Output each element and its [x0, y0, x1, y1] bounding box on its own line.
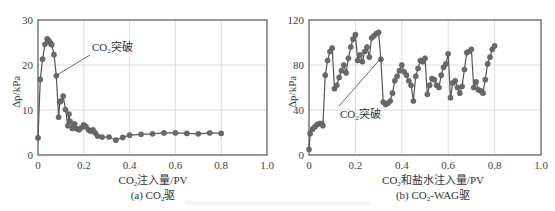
- data-point-marker: [219, 131, 224, 136]
- data-point-marker: [357, 52, 362, 57]
- data-point-marker: [61, 93, 66, 98]
- data-point-marker: [339, 68, 344, 73]
- data-point-marker: [320, 123, 325, 128]
- data-point-marker: [443, 61, 448, 66]
- data-point-marker: [341, 62, 346, 67]
- chart-b-y-axis-label: Δp/kPa: [286, 68, 298, 108]
- x-tick-label: 1.0: [260, 159, 274, 171]
- x-tick-label: 1.0: [534, 159, 548, 171]
- data-point-marker: [51, 52, 56, 57]
- chart-a-y-axis-label: Δp/kPa: [10, 68, 22, 108]
- data-point-marker: [35, 135, 40, 140]
- x-tick-label: 0.6: [169, 159, 183, 171]
- data-point-marker: [355, 58, 360, 63]
- data-point-marker: [471, 85, 476, 90]
- data-point-marker: [485, 61, 490, 66]
- data-point-marker: [138, 132, 143, 137]
- x-tick-label: 0: [35, 159, 41, 171]
- data-point-marker: [487, 55, 492, 60]
- data-point-marker: [58, 98, 63, 103]
- data-point-marker: [106, 134, 111, 139]
- data-point-marker: [184, 131, 189, 136]
- y-tick-label: 30: [22, 14, 34, 26]
- x-tick-label: 0.2: [77, 159, 91, 171]
- data-point-marker: [427, 83, 432, 88]
- y-tick-label: 20: [22, 59, 34, 71]
- chart-b-caption: (b) CO2-WAG驱: [378, 186, 488, 203]
- x-tick-label: 0: [306, 159, 312, 171]
- data-point-marker: [161, 130, 166, 135]
- data-point-marker: [376, 30, 381, 35]
- data-point-marker: [404, 73, 409, 78]
- data-point-marker: [63, 107, 68, 112]
- y-tick-label: 120: [288, 14, 305, 26]
- data-point-marker: [439, 73, 444, 78]
- x-tick-label: 0.2: [349, 159, 363, 171]
- data-point-marker: [399, 62, 404, 67]
- data-point-marker: [436, 85, 441, 90]
- data-point-marker: [72, 121, 77, 126]
- data-point-marker: [469, 47, 474, 52]
- data-point-marker: [40, 57, 45, 62]
- data-point-marker: [173, 130, 178, 135]
- x-tick-label: 0.6: [441, 159, 455, 171]
- chart-b-co2-wag-flooding: 00.20.40.60.81.004080120CO₂突破 Δp/kPa CO2…: [278, 0, 555, 200]
- data-point-marker: [483, 77, 488, 82]
- data-point-marker: [56, 115, 61, 120]
- data-point-marker: [346, 56, 351, 61]
- data-point-marker: [344, 70, 349, 75]
- data-point-marker: [378, 57, 383, 62]
- data-point-marker: [390, 91, 395, 96]
- data-point-marker: [462, 67, 467, 72]
- data-point-marker: [38, 77, 43, 82]
- y-tick-label: 10: [22, 104, 34, 116]
- data-point-marker: [120, 135, 125, 140]
- data-point-marker: [480, 91, 485, 96]
- data-point-marker: [100, 134, 105, 139]
- annotation-co2-breakthrough: CO₂突破: [92, 40, 133, 53]
- figure-caption-faint: [185, 201, 370, 205]
- x-tick-label: 0.4: [123, 159, 137, 171]
- data-point-marker: [473, 79, 478, 84]
- data-point-marker: [348, 44, 353, 49]
- data-point-marker: [150, 131, 155, 136]
- data-point-marker: [207, 130, 212, 135]
- data-point-marker: [397, 68, 402, 73]
- data-point-marker: [330, 46, 335, 51]
- data-point-marker: [67, 119, 72, 124]
- data-point-marker: [432, 77, 437, 82]
- data-point-marker: [395, 74, 400, 79]
- data-point-marker: [49, 42, 54, 47]
- data-point-marker: [334, 83, 339, 88]
- data-point-marker: [360, 59, 365, 64]
- x-tick-label: 0.8: [214, 159, 228, 171]
- data-point-marker: [337, 75, 342, 80]
- data-point-marker: [367, 55, 372, 60]
- x-tick-label: 0.4: [395, 159, 409, 171]
- x-tick-label: 0.8: [488, 159, 502, 171]
- data-point-marker: [446, 51, 451, 56]
- data-point-marker: [455, 85, 460, 90]
- data-point-marker: [95, 134, 100, 139]
- data-point-marker: [306, 147, 311, 152]
- data-point-marker: [66, 111, 71, 116]
- data-point-marker: [448, 95, 453, 100]
- data-point-marker: [408, 83, 413, 88]
- data-point-marker: [364, 44, 369, 49]
- chart-a-co2-flooding: 00.20.40.60.81.00102030CO₂突破 Δp/kPa CO2注…: [0, 0, 278, 200]
- data-point-marker: [460, 84, 465, 89]
- data-point-marker: [127, 133, 132, 138]
- data-point-marker: [425, 92, 430, 97]
- data-point-marker: [457, 91, 462, 96]
- y-tick-label: 0: [299, 149, 305, 161]
- plot-frame: [309, 20, 541, 155]
- data-point-marker: [323, 73, 328, 78]
- data-point-marker: [325, 58, 330, 63]
- chart-b-plot: 00.20.40.60.81.004080120CO₂突破: [278, 0, 555, 200]
- chart-a-plot: 00.20.40.60.81.00102030CO₂突破: [0, 0, 278, 200]
- data-point-marker: [196, 131, 201, 136]
- data-point-marker: [422, 56, 427, 61]
- y-tick-label: 0: [28, 149, 34, 161]
- data-point-marker: [453, 78, 458, 83]
- data-point-marker: [413, 74, 418, 79]
